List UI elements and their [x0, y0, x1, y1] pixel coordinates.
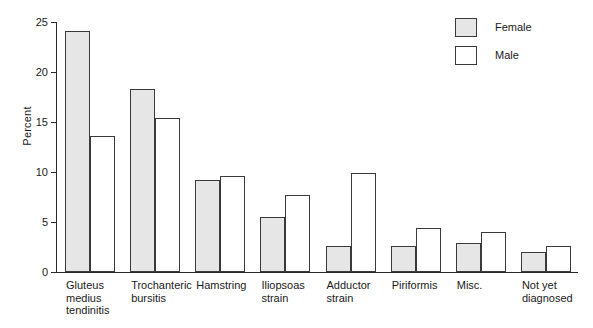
bar-group: [521, 22, 571, 272]
bar-female: [521, 252, 546, 272]
bar-male: [481, 232, 506, 272]
bar-male: [285, 195, 310, 272]
bar-female: [65, 31, 90, 272]
legend-label-female: Female: [495, 21, 532, 33]
bar-male: [416, 228, 441, 272]
category-label: Trochanteric bursitis: [131, 279, 202, 304]
y-tick-mark: [51, 272, 57, 273]
bar-male: [351, 173, 376, 272]
bar-female: [260, 217, 285, 272]
bar-female: [130, 89, 155, 272]
category-label: Gluteus medius tendinitis: [66, 279, 137, 317]
y-tick-label: 15: [2, 117, 48, 127]
category-label: Adductor strain: [327, 279, 398, 304]
bar-male: [220, 176, 245, 272]
category-label: Misc.: [457, 279, 528, 292]
x-axis-line: [56, 272, 578, 273]
category-label: Hamstring: [196, 279, 267, 292]
bar-group: [260, 22, 310, 272]
category-label: Not yet diagnosed: [522, 279, 593, 304]
bar-female: [391, 246, 416, 272]
bar-group: [326, 22, 376, 272]
y-tick-label: 20: [2, 67, 48, 77]
bar-group: [195, 22, 245, 272]
category-label: Piriformis: [392, 279, 463, 292]
legend-swatch-male-icon: [455, 46, 477, 65]
y-tick-label: 0: [2, 267, 48, 277]
bar-male: [546, 246, 571, 272]
bar-female: [195, 180, 220, 272]
bar-male: [90, 136, 115, 272]
y-tick-label: 5: [2, 217, 48, 227]
bar-group: [65, 22, 115, 272]
legend-swatch-female-icon: [455, 18, 477, 37]
bar-female: [456, 243, 481, 272]
bar-chart: Percent 0510152025 Gluteus medius tendin…: [0, 0, 593, 328]
bar-group: [391, 22, 441, 272]
y-tick-label: 25: [2, 17, 48, 27]
bar-female: [326, 246, 351, 272]
y-tick-label: 10: [2, 167, 48, 177]
bar-male: [155, 118, 180, 272]
legend-label-male: Male: [495, 49, 519, 61]
category-label: Iliopsoas strain: [261, 279, 332, 304]
bar-group: [130, 22, 180, 272]
